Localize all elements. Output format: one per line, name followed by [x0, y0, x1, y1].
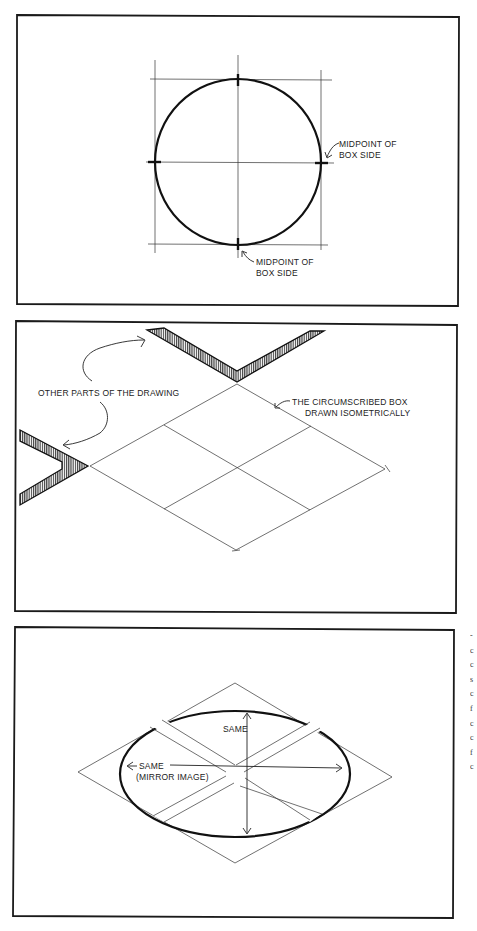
margin-fragment: c: [470, 731, 477, 746]
margin-fragment: c: [470, 658, 477, 673]
label-same-horizontal: SAME: [139, 761, 164, 771]
label-box-2: DRAWN ISOMETRICALLY: [305, 408, 410, 418]
margin-fragment: c: [470, 717, 477, 732]
margin-fragment: c: [470, 760, 477, 775]
midpoint-arrow-right: [327, 143, 339, 157]
margin-fragment: c: [470, 644, 477, 659]
box-construction-lines: [146, 55, 334, 258]
label-midpoint-right-2: BOX SIDE: [339, 150, 381, 160]
other-drawing-part-top: [147, 328, 324, 382]
margin-text-clipped: - c c s c f c c f c: [470, 629, 477, 775]
margin-fragment: c: [470, 687, 477, 702]
arrow-to-box: [276, 401, 290, 407]
curved-arrow-to-top-part: [83, 340, 144, 381]
label-mirror-image: (MIRROR IMAGE): [136, 772, 209, 782]
label-midpoint-bottom-1: MIDPOINT OF: [256, 257, 314, 267]
label-other-parts: OTHER PARTS OF THE DRAWING: [38, 388, 179, 398]
panel-isometric-ellipse: SAME SAME (MIRROR IMAGE): [13, 627, 454, 918]
other-drawing-part-left: [20, 430, 88, 505]
midpoint-arrow-bottom: [243, 252, 254, 262]
margin-fragment: s: [470, 673, 477, 688]
panel-circle-in-box: MIDPOINT OF BOX SIDE MIDPOINT OF BOX SID…: [17, 15, 459, 306]
label-box-1: THE CIRCUMSCRIBED BOX: [292, 397, 408, 407]
panel-isometric-box: OTHER PARTS OF THE DRAWING THE CIRCUMSCR…: [15, 321, 457, 613]
label-same-vertical: SAME: [223, 724, 248, 734]
label-midpoint-right-1: MIDPOINT OF: [339, 139, 397, 149]
margin-fragment: f: [470, 702, 477, 717]
margin-fragment: -: [470, 629, 477, 644]
label-midpoint-bottom-2: BOX SIDE: [256, 268, 298, 278]
illustration-canvas: MIDPOINT OF BOX SIDE MIDPOINT OF BOX SID…: [0, 0, 477, 931]
margin-fragment: f: [470, 746, 477, 761]
curved-arrow-to-left-part: [64, 402, 108, 445]
